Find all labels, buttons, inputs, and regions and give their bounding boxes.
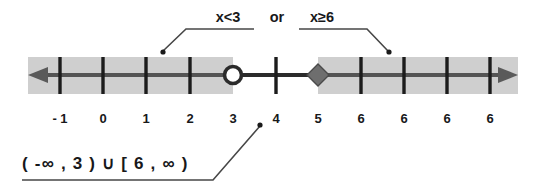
tick-label: 1	[142, 111, 149, 126]
inequality-left-label: x<3	[216, 9, 241, 25]
open-circle-endpoint	[225, 67, 242, 84]
tick-label: 0	[99, 111, 106, 126]
inequality-diagram: - 1 0 1 2 3 4 5 6 6 6 6 x<3 or x≥6 ( -∞ …	[0, 0, 536, 194]
tick-label: 6	[486, 111, 493, 126]
tick-label: 4	[272, 111, 280, 126]
tick-label: 6	[400, 111, 407, 126]
tick-label: - 1	[52, 111, 67, 126]
interval-notation-label: ( -∞ , 3 ) ∪ [ 6 , ∞ )	[22, 154, 189, 173]
left-leader-dot	[160, 49, 165, 54]
bottom-leader-dot	[257, 122, 262, 127]
tick-label: 3	[229, 111, 236, 126]
tick-label: 5	[314, 111, 321, 126]
tick-label: 6	[357, 111, 364, 126]
tick-label: 6	[443, 111, 450, 126]
right-leader-dot	[386, 49, 391, 54]
inequality-right-label: x≥6	[310, 9, 334, 25]
number-line-figure: - 1 0 1 2 3 4 5 6 6 6 6 x<3 or x≥6 ( -∞ …	[0, 0, 536, 194]
left-leader-line	[163, 29, 254, 51]
conjunction-label: or	[270, 9, 285, 25]
tick-label-group: - 1 0 1 2 3 4 5 6 6 6 6	[52, 111, 493, 126]
tick-label: 2	[186, 111, 193, 126]
right-leader-line	[299, 29, 388, 51]
